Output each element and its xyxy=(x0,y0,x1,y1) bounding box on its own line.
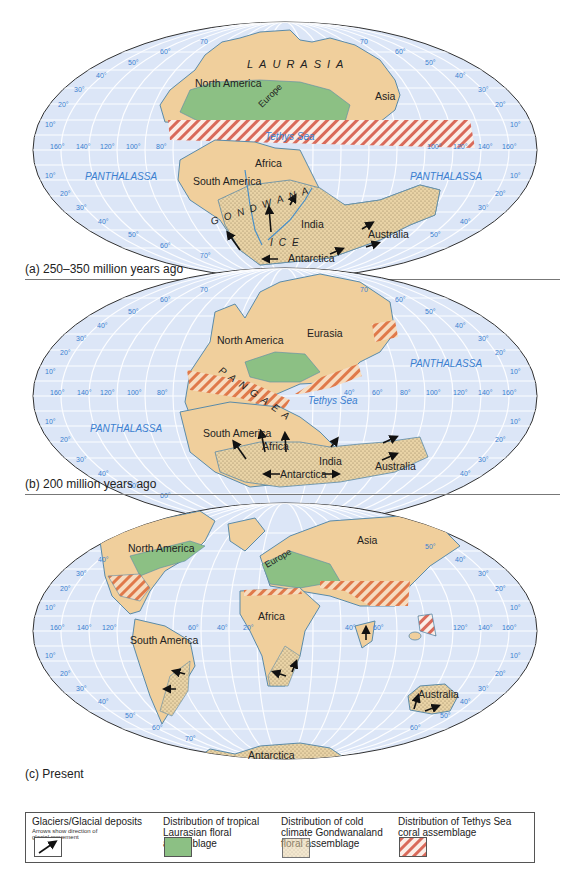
svg-text:40°: 40° xyxy=(455,322,466,329)
label-australia: Australia xyxy=(368,228,409,240)
svg-text:10°: 10° xyxy=(510,172,521,179)
label-antarctica: Antarctica xyxy=(288,252,335,264)
svg-text:20°: 20° xyxy=(495,670,506,677)
svg-text:30°: 30° xyxy=(478,335,489,342)
svg-text:40°: 40° xyxy=(98,218,109,225)
svg-text:100°: 100° xyxy=(426,389,441,396)
label-north-america: North America xyxy=(128,542,195,554)
svg-text:40°: 40° xyxy=(455,72,466,79)
svg-text:50°: 50° xyxy=(125,712,136,719)
svg-text:40°: 40° xyxy=(98,698,109,705)
svg-text:120°: 120° xyxy=(453,624,468,631)
svg-text:160°: 160° xyxy=(502,143,517,150)
svg-text:50°: 50° xyxy=(128,308,139,315)
svg-text:100°: 100° xyxy=(126,143,141,150)
svg-text:30°: 30° xyxy=(478,456,489,463)
svg-text:30°: 30° xyxy=(478,204,489,211)
svg-text:30°: 30° xyxy=(76,456,87,463)
svg-text:20°: 20° xyxy=(60,349,71,356)
svg-text:100°: 100° xyxy=(127,389,142,396)
svg-text:40°: 40° xyxy=(345,624,356,631)
svg-text:40°: 40° xyxy=(217,624,228,631)
svg-text:50°: 50° xyxy=(425,59,436,66)
svg-text:120°: 120° xyxy=(453,389,468,396)
label-india: India xyxy=(301,218,324,230)
svg-text:40°: 40° xyxy=(98,470,109,477)
green-swatch xyxy=(164,837,192,857)
svg-text:60°: 60° xyxy=(372,389,383,396)
svg-text:50°: 50° xyxy=(425,308,436,315)
label-australia: Australia xyxy=(418,688,459,700)
divider xyxy=(25,494,560,495)
label-panthalassa-east: PANTHALASSA xyxy=(410,358,482,369)
svg-text:140°: 140° xyxy=(478,143,493,150)
svg-text:50°: 50° xyxy=(440,712,451,719)
svg-text:50°: 50° xyxy=(128,231,139,238)
svg-text:10°: 10° xyxy=(45,604,56,611)
svg-text:60°: 60° xyxy=(188,624,199,631)
svg-text:10°: 10° xyxy=(45,652,56,659)
svg-text:120°: 120° xyxy=(100,389,115,396)
map-b-lower-graphic: 30° 40° 50° 60° 30° 40° xyxy=(0,440,571,500)
label-laurasia: LAURASIA xyxy=(247,58,349,70)
svg-text:70: 70 xyxy=(360,38,368,45)
svg-text:20°: 20° xyxy=(58,101,69,108)
svg-text:160°: 160° xyxy=(50,389,65,396)
svg-text:30°: 30° xyxy=(76,570,87,577)
label-tethys-sea: Tethys Sea xyxy=(308,395,358,406)
legend: Glaciers/Glacial deposits Arrows show di… xyxy=(25,812,535,863)
label-eurasia: Eurasia xyxy=(307,327,343,339)
label-north-america: North America xyxy=(195,77,262,89)
arrow-icon xyxy=(34,837,62,857)
svg-text:70°: 70° xyxy=(185,735,196,742)
svg-text:10°: 10° xyxy=(45,172,56,179)
map-panel-a: North America Asia Africa South America … xyxy=(0,0,571,290)
svg-text:20°: 20° xyxy=(495,190,506,197)
svg-text:20°: 20° xyxy=(495,101,506,108)
svg-text:20°: 20° xyxy=(60,670,71,677)
svg-text:10°: 10° xyxy=(510,652,521,659)
label-south-america: South America xyxy=(130,634,198,646)
svg-text:50°: 50° xyxy=(128,59,139,66)
label-panthalassa-west: PANTHALASSA xyxy=(85,171,157,182)
svg-text:10°: 10° xyxy=(510,121,521,128)
map-c-graphic: South America North America Asia Africa … xyxy=(0,496,571,811)
svg-text:140°: 140° xyxy=(76,143,91,150)
svg-text:20°: 20° xyxy=(243,624,254,631)
svg-text:60°: 60° xyxy=(373,624,384,631)
caption-panel-b: (b) 200 million years ago xyxy=(25,477,156,491)
svg-text:10°: 10° xyxy=(510,418,521,425)
svg-text:80°: 80° xyxy=(156,143,167,150)
label-africa: Africa xyxy=(255,157,282,169)
map-a-graphic: North America Asia Africa South America … xyxy=(0,0,571,290)
svg-text:40°: 40° xyxy=(460,698,471,705)
label-tethys-sea: Tethys Sea xyxy=(265,131,315,142)
svg-text:60°: 60° xyxy=(395,296,406,303)
hatch-swatch xyxy=(399,837,427,857)
svg-text:120°: 120° xyxy=(453,143,468,150)
label-africa: Africa xyxy=(258,610,285,622)
svg-text:50°: 50° xyxy=(425,543,436,550)
svg-text:20°: 20° xyxy=(495,585,506,592)
stipple-swatch xyxy=(282,838,310,858)
svg-text:70: 70 xyxy=(360,286,368,293)
svg-text:40°: 40° xyxy=(455,556,466,563)
label-panthalassa-west: PANTHALASSA xyxy=(90,423,162,434)
label-north-america: North America xyxy=(217,334,284,346)
svg-text:60°: 60° xyxy=(160,242,171,249)
svg-text:70: 70 xyxy=(200,38,208,45)
svg-text:20°: 20° xyxy=(60,190,71,197)
map-panel-b: North America Eurasia South America Afri… xyxy=(0,282,571,442)
svg-text:10°: 10° xyxy=(45,418,56,425)
svg-text:40°: 40° xyxy=(460,470,471,477)
svg-text:100°: 100° xyxy=(427,143,442,150)
svg-text:40°: 40° xyxy=(97,322,108,329)
svg-text:10°: 10° xyxy=(45,121,56,128)
label-south-america: South America xyxy=(193,175,261,187)
svg-text:10°: 10° xyxy=(510,604,521,611)
svg-text:30°: 30° xyxy=(478,86,489,93)
svg-text:160°: 160° xyxy=(502,389,517,396)
svg-text:160°: 160° xyxy=(50,624,65,631)
svg-text:30°: 30° xyxy=(76,204,87,211)
svg-text:30°: 30° xyxy=(76,685,87,692)
